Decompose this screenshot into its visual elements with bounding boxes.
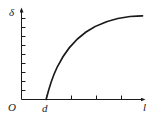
y-axis-label: δ xyxy=(9,7,14,18)
plot-canvas xyxy=(0,0,156,120)
threshold-label-d: d xyxy=(42,103,48,114)
deflection-curve xyxy=(46,16,142,100)
x-axis-label: l xyxy=(143,102,146,113)
y-axis-ticks xyxy=(22,19,26,91)
figure-container: δ O d l xyxy=(0,0,156,120)
origin-label: O xyxy=(8,102,16,113)
x-axis-ticks xyxy=(47,96,122,100)
